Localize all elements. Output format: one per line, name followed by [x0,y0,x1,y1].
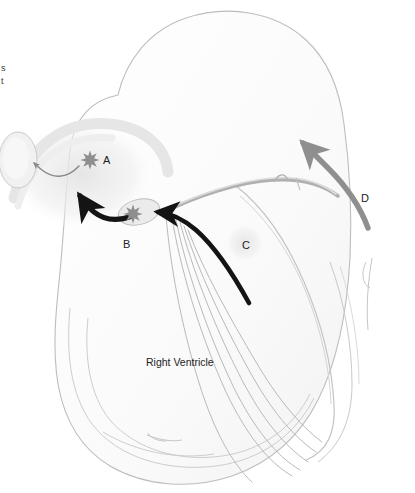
caption-line-1: s [1,62,6,75]
heart-outer-outline [55,11,351,484]
left-ellipse-region [0,132,37,188]
caption-line-2: t [1,75,6,88]
cropped-left-caption: s t [1,62,6,88]
point-label-c: C [242,240,250,251]
point-label-a: A [103,155,110,166]
point-label-d: D [361,193,369,204]
starburst-marker-a [81,151,100,170]
heart-diagram-svg [0,0,415,493]
cardiac-conduction-figure: s t A B C D Right Ventricle [0,0,415,493]
starburst-marker-b [124,205,143,224]
chamber-label-right-ventricle: Right Ventricle [146,357,214,368]
point-label-b: B [123,239,130,250]
